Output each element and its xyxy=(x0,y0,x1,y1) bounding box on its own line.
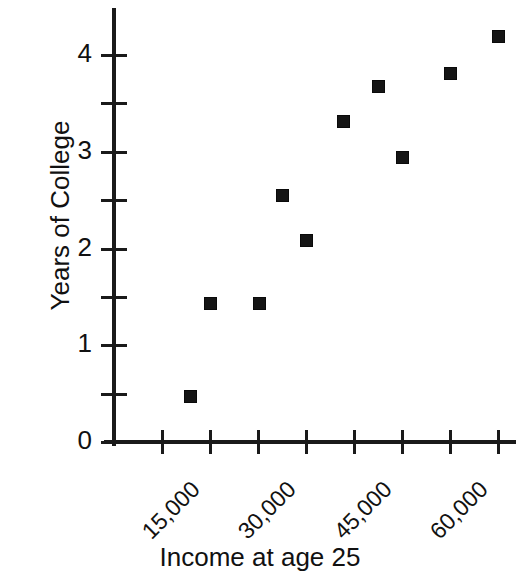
x-axis-tick xyxy=(449,430,452,454)
x-axis-tick xyxy=(497,430,500,454)
y-axis-tick xyxy=(101,248,127,251)
x-axis-tick xyxy=(401,430,404,454)
y-axis-tick xyxy=(101,102,127,105)
data-point xyxy=(492,30,505,43)
data-point xyxy=(444,67,457,80)
data-point xyxy=(253,297,266,310)
y-axis-tick xyxy=(101,296,127,299)
data-point xyxy=(184,390,197,403)
y-axis-line xyxy=(112,8,116,446)
data-point xyxy=(337,115,350,128)
y-axis-tick xyxy=(101,441,127,444)
y-axis-tick xyxy=(101,54,127,57)
x-axis-tick-label: 45,000 xyxy=(330,477,396,543)
y-axis-tick xyxy=(101,199,127,202)
scatter-chart: 01234 15,00030,00045,00060,000 Years of … xyxy=(0,0,520,579)
y-axis-tick-label: 0 xyxy=(52,427,92,453)
y-axis-tick xyxy=(101,393,127,396)
x-axis-tick xyxy=(305,430,308,454)
x-axis-title: Income at age 25 xyxy=(0,542,520,573)
x-axis-tick xyxy=(161,430,164,454)
data-point xyxy=(372,80,385,93)
y-axis-tick xyxy=(101,151,127,154)
y-axis-tick-label: 4 xyxy=(52,40,92,66)
x-axis-tick xyxy=(353,430,356,454)
data-point xyxy=(300,234,313,247)
data-point xyxy=(396,151,409,164)
plot-area: 01234 15,00030,00045,00060,000 Years of … xyxy=(0,0,520,579)
data-point xyxy=(276,189,289,202)
data-point xyxy=(204,297,217,310)
x-axis-line xyxy=(104,440,516,444)
x-axis-tick-label: 60,000 xyxy=(426,477,492,543)
y-axis-title: Years of College xyxy=(45,76,76,356)
x-axis-tick xyxy=(257,430,260,454)
x-axis-tick-label: 15,000 xyxy=(138,477,204,543)
x-axis-tick-label: 30,000 xyxy=(234,477,300,543)
x-axis-tick xyxy=(209,430,212,454)
y-axis-tick xyxy=(101,344,127,347)
